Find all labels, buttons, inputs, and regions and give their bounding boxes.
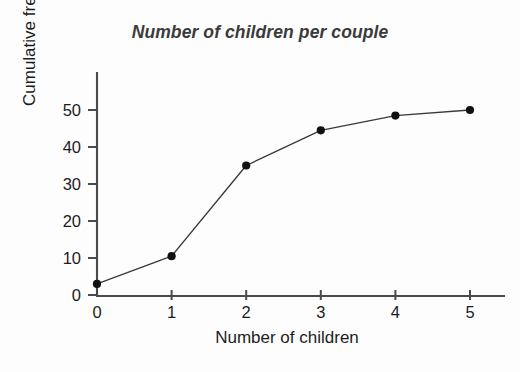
y-axis-tick-label: 0 — [45, 286, 81, 305]
data-point — [93, 280, 101, 288]
x-axis-tick-label: 3 — [307, 303, 335, 322]
y-axis-tick-label: 10 — [45, 249, 81, 268]
y-axis-tick-label: 20 — [45, 212, 81, 231]
data-point-markers — [93, 106, 474, 288]
data-point — [242, 161, 250, 169]
y-axis-ticks — [88, 110, 97, 295]
data-point — [317, 126, 325, 134]
data-point — [466, 106, 474, 114]
x-axis-tick-label: 1 — [158, 303, 186, 322]
x-axis-tick-label: 4 — [381, 303, 409, 322]
y-axis-tick-label: 50 — [45, 101, 81, 120]
chart-container: Number of children per couple Cumulative… — [0, 0, 520, 372]
y-axis-tick-label: 30 — [45, 175, 81, 194]
data-point — [391, 111, 399, 119]
data-line — [97, 110, 470, 284]
x-axis-tick-label: 0 — [83, 303, 111, 322]
x-axis-tick-label: 5 — [456, 303, 484, 322]
x-axis-tick-label: 2 — [232, 303, 260, 322]
data-point — [168, 252, 176, 260]
y-axis-tick-label: 40 — [45, 138, 81, 157]
